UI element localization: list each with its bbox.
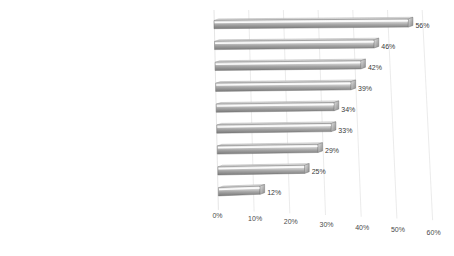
bar-end-cap: [260, 185, 265, 195]
bar: [216, 80, 356, 91]
bar-end-cap: [331, 122, 336, 132]
bar: [216, 101, 339, 112]
bar-value-label: 12%: [267, 189, 281, 196]
bar: [215, 38, 379, 49]
chart-plot-area: [0, 0, 454, 256]
x-tick-label: 10%: [248, 215, 262, 222]
bar-value-label: 46%: [381, 43, 395, 50]
bar-end-cap: [334, 101, 339, 111]
bar-value-label: 33%: [338, 127, 352, 134]
bar: [217, 122, 336, 133]
bar: [218, 185, 264, 196]
gridline: [422, 10, 432, 220]
bar: [215, 59, 365, 70]
bar-value-label: 42%: [368, 64, 382, 71]
bar-value-label: 56%: [415, 22, 429, 29]
x-tick-label: 30%: [320, 221, 334, 228]
bar-value-label: 39%: [358, 85, 372, 92]
bar-end-cap: [305, 164, 310, 174]
bar-end-cap: [318, 143, 323, 153]
bar-value-label: 25%: [312, 168, 326, 175]
bar: [218, 164, 309, 175]
bar-chart: uniquely productsguarantees that I feel …: [0, 0, 454, 256]
x-tick-label: 60%: [427, 229, 441, 236]
x-tick-label: 0%: [212, 212, 222, 219]
bar-value-label: 29%: [325, 147, 339, 154]
x-tick-label: 20%: [284, 218, 298, 225]
gridline: [388, 10, 397, 218]
x-tick-label: 40%: [355, 224, 369, 231]
bar-end-cap: [408, 17, 413, 27]
bar-value-label: 34%: [341, 106, 355, 113]
bar-end-cap: [351, 80, 356, 90]
bar: [214, 17, 413, 28]
x-tick-label: 50%: [391, 226, 405, 233]
bar-end-cap: [374, 38, 379, 48]
bar: [217, 143, 322, 154]
bar-end-cap: [361, 59, 366, 69]
